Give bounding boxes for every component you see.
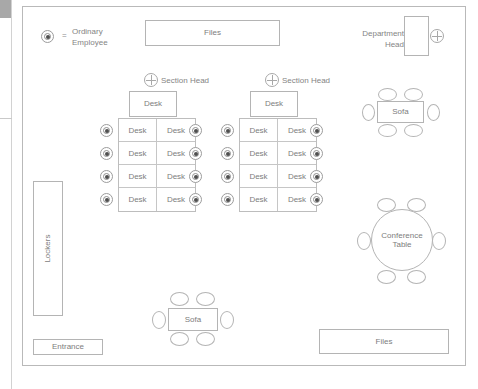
chair — [377, 270, 396, 284]
chair — [152, 311, 166, 329]
chair — [196, 292, 215, 306]
chair — [220, 311, 234, 329]
ordinary-employee-symbol — [189, 124, 202, 137]
section-head-desk-right: Desk — [250, 91, 298, 117]
ordinary-employee-symbol — [189, 147, 202, 160]
ordinary-employee-symbol — [189, 193, 202, 206]
ordinary-employee-symbol — [310, 193, 323, 206]
office-floor-plan: = Ordinary Employee Files Department Hea… — [0, 0, 478, 389]
ordinary-employee-symbol — [100, 147, 113, 160]
page-gutter-horizontal-rule — [0, 118, 12, 119]
section-head-label-right: Section Head — [282, 76, 330, 86]
desk-cell: Desk — [240, 188, 278, 211]
chair — [404, 124, 423, 137]
department-head-desk — [404, 16, 429, 56]
section-head-label-left: Section Head — [161, 76, 209, 86]
lockers-label: Lockers — [43, 234, 52, 262]
chair — [427, 104, 440, 121]
chair — [170, 332, 189, 346]
ordinary-employee-symbol — [189, 170, 202, 183]
lockers: Lockers — [33, 181, 63, 316]
department-head-label-line2: Head — [352, 40, 404, 50]
ordinary-employee-symbol — [221, 170, 234, 183]
chair — [378, 124, 397, 137]
ordinary-employee-symbol — [221, 193, 234, 206]
desk-cell: Desk — [240, 142, 278, 165]
desk-cell: Desk — [119, 188, 157, 211]
ordinary-employee-symbol — [310, 147, 323, 160]
desk-cell: Desk — [240, 119, 278, 142]
conference-table-label-line2: Table — [392, 240, 411, 249]
desk-cell: Desk — [240, 165, 278, 188]
sofa-bottom: Sofa — [168, 308, 218, 331]
entrance: Entrance — [33, 339, 103, 355]
desk-cell: Desk — [119, 165, 157, 188]
ordinary-employee-symbol — [310, 124, 323, 137]
legend-label-line2: Employee — [72, 38, 108, 48]
chair — [432, 232, 446, 250]
chair — [357, 232, 371, 250]
legend-label-line1: Ordinary — [72, 27, 103, 37]
desk-grid-right: Desk Desk Desk Desk Desk Desk Desk Desk — [239, 118, 317, 212]
ordinary-employee-symbol — [310, 170, 323, 183]
ordinary-employee-symbol — [100, 170, 113, 183]
desk-grid-left: Desk Desk Desk Desk Desk Desk Desk Desk — [118, 118, 196, 212]
department-head-symbol — [430, 29, 444, 43]
ordinary-employee-symbol — [221, 147, 234, 160]
chair — [378, 88, 397, 101]
files-cabinet-bottom: Files — [319, 329, 449, 354]
chair — [404, 88, 423, 101]
ordinary-employee-symbol — [41, 30, 54, 43]
conference-table: Conference Table — [371, 209, 433, 271]
ordinary-employee-symbol — [221, 124, 234, 137]
chair — [196, 332, 215, 346]
desk-cell: Desk — [119, 119, 157, 142]
legend-equals-sign: = — [62, 31, 67, 40]
page-gutter-block — [0, 0, 11, 18]
desk-cell: Desk — [119, 142, 157, 165]
sofa-top: Sofa — [377, 101, 424, 123]
files-cabinet-top: Files — [145, 20, 280, 46]
chair — [362, 104, 375, 121]
section-head-symbol-left — [144, 73, 158, 87]
section-head-symbol-right — [265, 73, 279, 87]
chair — [170, 292, 189, 306]
section-head-desk-left: Desk — [129, 91, 177, 117]
page-gutter-vertical-rule — [11, 0, 12, 389]
ordinary-employee-symbol — [100, 193, 113, 206]
ordinary-employee-symbol — [100, 124, 113, 137]
conference-table-label-line1: Conference — [381, 231, 422, 240]
department-head-label-line1: Department — [352, 29, 404, 39]
chair — [407, 270, 426, 284]
